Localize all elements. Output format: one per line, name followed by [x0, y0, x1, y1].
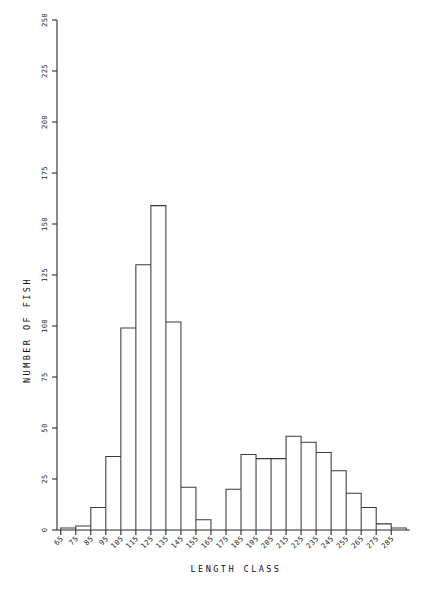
x-tick-label: 205 [259, 534, 275, 550]
x-tick-label: 245 [319, 534, 335, 550]
axes-group [57, 20, 410, 530]
x-tick-label: 95 [97, 534, 110, 547]
x-tick-label: 155 [184, 534, 200, 550]
x-tick-label: 265 [349, 534, 365, 550]
x-tick-group: 6575859510511512513514515516517518519520… [52, 530, 396, 550]
y-tick-label: 0 [40, 528, 49, 533]
y-tick-label: 75 [40, 372, 49, 381]
y-tick-label: 175 [40, 166, 49, 180]
x-tick-label: 195 [244, 534, 260, 550]
x-tick-label: 125 [139, 534, 155, 550]
x-tick-label: 135 [154, 534, 170, 550]
x-tick-label: 175 [214, 534, 230, 550]
x-tick-label: 275 [364, 534, 380, 550]
x-tick-label: 115 [124, 534, 140, 550]
y-tick-group: 0255075100125150175200225250 [40, 13, 57, 532]
histogram-outline [61, 206, 406, 530]
y-axis-title: NUMBER OF FISH [22, 277, 32, 383]
y-tick-label: 125 [40, 268, 49, 282]
bar-group [61, 206, 406, 530]
x-axis-title: LENGTH CLASS [191, 564, 282, 574]
chart-figure: 0255075100125150175200225250 65758595105… [0, 0, 424, 589]
x-tick-label: 145 [169, 534, 185, 550]
x-tick-label: 165 [199, 534, 215, 550]
x-tick-label: 215 [274, 534, 290, 550]
y-tick-label: 250 [40, 13, 49, 27]
x-tick-label: 185 [229, 534, 245, 550]
x-tick-label: 105 [109, 534, 125, 550]
x-tick-label: 235 [304, 534, 320, 550]
x-tick-label: 75 [67, 534, 80, 547]
x-tick-label: 85 [82, 534, 95, 547]
y-tick-label: 225 [40, 64, 49, 78]
y-tick-label: 100 [40, 319, 49, 333]
x-tick-label: 225 [289, 534, 305, 550]
x-tick-label: 255 [334, 534, 350, 550]
histogram-plot: 0255075100125150175200225250 65758595105… [0, 0, 424, 589]
y-tick-label: 25 [40, 474, 49, 483]
y-tick-label: 50 [40, 423, 49, 432]
y-tick-label: 150 [40, 217, 49, 231]
x-tick-label: 285 [379, 534, 395, 550]
y-tick-label: 200 [40, 115, 49, 129]
x-tick-label: 65 [52, 534, 65, 547]
